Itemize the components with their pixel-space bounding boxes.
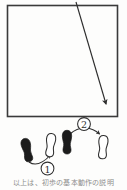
diagonal-movement-arrow <box>76 2 106 104</box>
court-rectangle <box>8 6 118 117</box>
footprint-right-end <box>98 135 109 159</box>
step-number-2-label: 2 <box>81 119 87 130</box>
step-number-1-label: 1 <box>44 164 50 175</box>
diagram-canvas: 1 2 <box>0 0 127 190</box>
step-number-2: 2 <box>78 118 91 131</box>
footprint-left-end <box>45 133 57 157</box>
footprint-left-start <box>20 138 34 163</box>
figure-container: 1 2 以上は、初歩の基本動作の説明 <box>0 0 127 190</box>
figure-caption: 以上は、初歩の基本動作の説明 <box>0 179 127 188</box>
step-number-1: 1 <box>41 162 54 175</box>
footprint-right-start <box>62 130 71 154</box>
